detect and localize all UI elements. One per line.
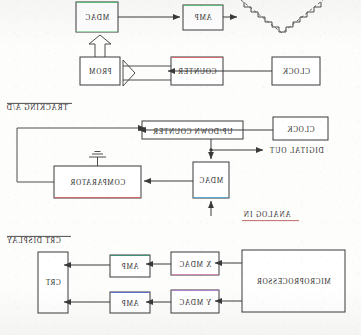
block-amp-y: AMP [110,292,150,313]
block-label-counter: COUNTER [178,68,217,76]
label-analog-in-group: ANALOG IN [242,211,299,221]
block-label-clock-top: CLOCK [282,68,310,76]
block-label-crt: CRT [45,279,61,287]
label-digital-out: DIGITAL OUT [269,147,324,155]
block-mdac-mid: MDAC [193,162,229,198]
block-label-mdac-top: MDAC [85,14,109,22]
output-waveform [241,0,323,33]
diagram-waveform-generator: MDAC AMP [76,0,323,86]
diagram-title-text-crt-display: CRT DISPLAY [6,237,61,245]
block-amp-top: AMP [183,5,223,30]
block-label-mdac-y: Y MDAC [179,299,212,307]
block-prom: PROM [80,57,120,85]
diagram-title-text-tracking-ad: TRACKING A/D [6,104,68,112]
block-label-mdac-mid: MDAC [199,177,223,185]
label-analog-in: ANALOG IN [243,211,291,219]
block-label-amp-x: AMP [121,263,139,271]
block-label-clock-mid: CLOCK [286,126,314,134]
block-label-up-down-counter: UP/DOWN COUNTER [153,128,233,136]
block-mdac-top: MDAC [76,2,118,32]
connector-digital-out [209,148,263,151]
block-label-amp-top: AMP [194,14,212,22]
scanned-page: MDAC AMP [0,0,361,335]
ground-symbol [89,152,106,167]
block-mdac-y: Y MDAC [171,290,219,313]
block-clock-mid: CLOCK [273,117,328,140]
block-clock-top: CLOCK [272,57,320,85]
block-label-prom: PROM [88,68,111,76]
block-label-microprocessor: MICROPROCESSOR [256,278,331,286]
block-crt: CRT [38,252,68,313]
diagram-title-tracking-ad: TRACKING A/D [6,103,72,112]
block-comparator: COMPARATOR [54,166,141,198]
block-mdac-x: X MDAC [171,252,219,275]
block-microprocessor: MICROPROCESSOR [242,250,345,312]
block-label-mdac-x: X MDAC [179,261,212,269]
diagram-crt-display: CRT DISPLAY CRT AMP [6,236,345,313]
diagram-canvas: MDAC AMP [0,0,361,335]
diagram-tracking-ad: TRACKING A/D UP/DOWN COUNTER CLOCK [6,103,328,220]
connector-counter-to-prom-bus [123,60,171,86]
block-label-amp-y: AMP [121,300,139,308]
connector-prom-to-mdac-bus [89,35,111,57]
diagram-title-crt-display: CRT DISPLAY [6,236,71,245]
block-label-comparator: COMPARATOR [70,179,125,187]
block-amp-x: AMP [110,255,150,277]
